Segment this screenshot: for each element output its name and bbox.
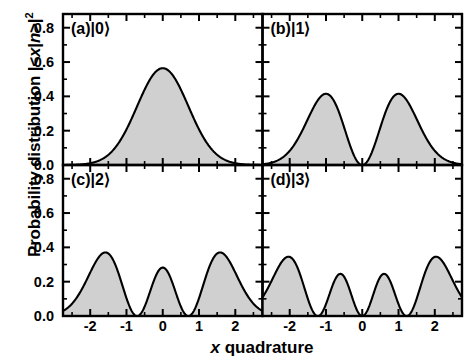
figure-container: Probability distribution |<x|n>|2 x quad… — [0, 0, 476, 364]
panel-a — [63, 14, 263, 165]
curve-fill — [63, 252, 263, 316]
panel-b — [263, 14, 463, 165]
curve-fill — [263, 94, 463, 165]
plot-svg — [0, 0, 476, 364]
curve-fill — [63, 68, 263, 165]
panel-frame — [263, 14, 463, 165]
panel-c — [63, 165, 263, 316]
curve-fill — [263, 257, 463, 316]
panel-d — [263, 165, 463, 316]
